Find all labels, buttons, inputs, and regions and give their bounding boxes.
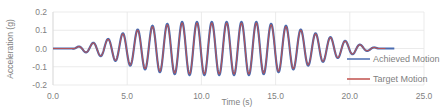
x-tick-label: 0.0 xyxy=(47,91,59,101)
x-axis-title: Time (s) xyxy=(222,97,253,107)
x-tick-label: 5.0 xyxy=(121,91,133,101)
x-tick-label: 15.0 xyxy=(267,91,284,101)
legend-label-achieved: Achieved Motion xyxy=(373,54,440,64)
legend-item-achieved: Achieved Motion xyxy=(347,54,440,64)
x-tick-label: 20.0 xyxy=(342,91,359,101)
y-axis-title: Acceleration (g) xyxy=(5,19,15,79)
legend-item-target: Target Motion xyxy=(347,74,428,84)
y-tick-label: -0.1 xyxy=(32,62,47,72)
y-tick-label: 0.2 xyxy=(35,7,47,17)
x-tick-label: 10.0 xyxy=(193,91,210,101)
y-tick-label: -0.2 xyxy=(32,80,47,90)
legend: Achieved Motion Target Motion xyxy=(347,54,440,84)
x-tick-label: 25.0 xyxy=(416,91,433,101)
y-axis-ticks: 0.20.10.0-0.1-0.2 xyxy=(32,7,47,90)
legend-label-target: Target Motion xyxy=(373,74,428,84)
acceleration-chart: 0.20.10.0-0.1-0.2 0.05.010.015.020.025.0… xyxy=(0,0,447,110)
y-tick-label: 0.1 xyxy=(35,25,47,35)
y-tick-label: 0.0 xyxy=(35,44,47,54)
